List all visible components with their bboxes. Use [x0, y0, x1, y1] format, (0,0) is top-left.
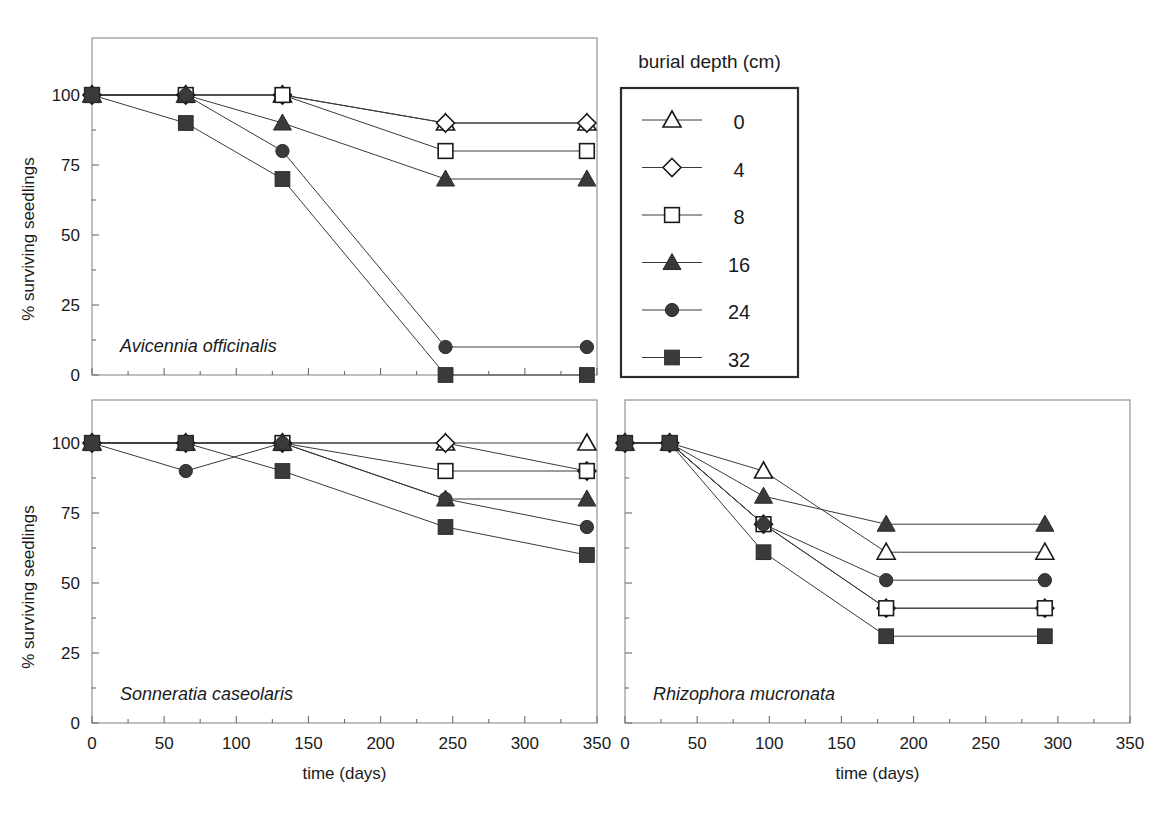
- x-axis-title-rhizophora: time (days): [835, 764, 919, 783]
- x-tick-label-rhizophora-50: 50: [688, 734, 707, 753]
- legend-label-24: 24: [728, 301, 750, 323]
- y-tick-label-sonneratia-75: 75: [61, 504, 80, 523]
- x-tick-label-sonneratia-250: 250: [439, 734, 467, 753]
- series-line-sonneratia-8: [92, 443, 587, 471]
- series-line-rhizophora-16: [625, 443, 1045, 524]
- x-tick-label-rhizophora-150: 150: [827, 734, 855, 753]
- data-point-sonneratia-24-343: [580, 520, 593, 533]
- data-point-sonneratia-16-343: [578, 490, 596, 506]
- data-point-avicennia-16-245: [437, 170, 455, 186]
- data-point-sonneratia-8-343: [580, 464, 595, 479]
- data-point-sonneratia-32-245: [438, 520, 453, 535]
- legend-label-8: 8: [733, 206, 744, 228]
- data-point-rhizophora-32-96: [756, 545, 771, 560]
- data-point-rhizophora-32-31: [662, 436, 677, 451]
- data-point-rhizophora-32-181: [879, 629, 894, 644]
- series-line-avicennia-24: [92, 95, 587, 347]
- data-point-sonneratia-8-245: [438, 464, 453, 479]
- series-line-sonneratia-24: [92, 443, 587, 527]
- x-tick-label-rhizophora-250: 250: [972, 734, 1000, 753]
- x-tick-label-rhizophora-100: 100: [755, 734, 783, 753]
- y-axis-title-sonneratia: % surviving seedlings: [19, 505, 38, 668]
- data-point-rhizophora-24-181: [880, 574, 893, 587]
- y-axis-title-avicennia: % surviving seedlings: [19, 157, 38, 320]
- legend-marker-circle-filled: [665, 303, 678, 316]
- panel-frame-rhizophora: [625, 400, 1130, 723]
- x-tick-label-sonneratia-0: 0: [87, 734, 96, 753]
- data-point-avicennia-24-245: [439, 340, 452, 353]
- legend-box: [621, 88, 798, 377]
- x-tick-label-rhizophora-200: 200: [899, 734, 927, 753]
- data-point-rhizophora-8-181: [879, 601, 894, 616]
- data-point-rhizophora-24-96: [757, 518, 770, 531]
- y-tick-label-sonneratia-25: 25: [61, 644, 80, 663]
- y-tick-label-avicennia-50: 50: [61, 226, 80, 245]
- figure-canvas: 0255075100Avicennia officinalis% survivi…: [0, 0, 1159, 819]
- series-line-avicennia-32: [92, 95, 587, 375]
- data-point-rhizophora-32-0: [618, 436, 633, 451]
- x-tick-label-sonneratia-350: 350: [583, 734, 611, 753]
- data-point-avicennia-16-343: [578, 170, 596, 186]
- legend-title: burial depth (cm): [638, 51, 781, 72]
- data-point-rhizophora-32-291: [1038, 629, 1053, 644]
- legend-label-32: 32: [728, 349, 750, 371]
- legend-marker-square-open: [665, 208, 680, 223]
- x-tick-label-sonneratia-150: 150: [294, 734, 322, 753]
- data-point-sonneratia-32-132: [275, 464, 290, 479]
- data-point-rhizophora-24-291: [1038, 574, 1051, 587]
- x-tick-label-rhizophora-0: 0: [620, 734, 629, 753]
- species-label-avicennia: Avicennia officinalis: [119, 336, 277, 356]
- x-tick-label-sonneratia-200: 200: [366, 734, 394, 753]
- x-axis-title-sonneratia: time (days): [302, 764, 386, 783]
- data-point-rhizophora-16-291: [1036, 515, 1054, 531]
- y-tick-label-sonneratia-0: 0: [71, 714, 80, 733]
- data-point-avicennia-32-132: [275, 172, 290, 187]
- data-point-sonneratia-32-343: [580, 548, 595, 563]
- data-point-sonneratia-32-0: [85, 436, 100, 451]
- series-line-rhizophora-4: [625, 443, 1045, 608]
- data-point-avicennia-24-343: [580, 340, 593, 353]
- legend-label-4: 4: [733, 159, 744, 181]
- y-tick-label-avicennia-25: 25: [61, 296, 80, 315]
- series-line-sonneratia-4: [92, 443, 587, 471]
- y-tick-label-avicennia-100: 100: [52, 86, 80, 105]
- data-point-sonneratia-24-245: [439, 492, 452, 505]
- data-point-sonneratia-24-65: [179, 464, 192, 477]
- figure-root: 0255075100Avicennia officinalis% survivi…: [0, 0, 1159, 819]
- data-point-sonneratia-32-65: [178, 436, 193, 451]
- data-point-rhizophora-0-291: [1036, 543, 1054, 559]
- y-tick-label-sonneratia-100: 100: [52, 434, 80, 453]
- legend-marker-diamond-open: [663, 159, 681, 177]
- data-point-avicennia-32-245: [438, 368, 453, 383]
- data-point-sonneratia-0-343: [578, 434, 596, 450]
- x-tick-label-sonneratia-50: 50: [155, 734, 174, 753]
- y-tick-label-avicennia-75: 75: [61, 156, 80, 175]
- series-line-avicennia-4: [92, 95, 587, 123]
- data-point-avicennia-8-245: [438, 144, 453, 159]
- data-point-avicennia-32-65: [178, 116, 193, 131]
- data-point-sonneratia-24-132: [276, 436, 289, 449]
- panel-frame-avicennia: [92, 38, 597, 375]
- data-point-avicennia-16-132: [273, 114, 291, 130]
- y-tick-label-sonneratia-50: 50: [61, 574, 80, 593]
- species-label-rhizophora: Rhizophora mucronata: [653, 684, 835, 704]
- series-line-rhizophora-32: [625, 443, 1045, 636]
- species-label-sonneratia: Sonneratia caseolaris: [120, 684, 293, 704]
- data-point-rhizophora-8-291: [1038, 601, 1053, 616]
- data-point-avicennia-8-343: [580, 144, 595, 159]
- data-point-avicennia-8-132: [275, 88, 290, 103]
- data-point-rhizophora-0-96: [755, 462, 773, 478]
- legend-label-16: 16: [728, 254, 750, 276]
- x-tick-label-rhizophora-300: 300: [1044, 734, 1072, 753]
- legend-marker-triangle-filled: [663, 254, 681, 270]
- x-tick-label-sonneratia-300: 300: [511, 734, 539, 753]
- y-tick-label-avicennia-0: 0: [71, 366, 80, 385]
- legend-marker-square-filled: [665, 350, 680, 365]
- data-point-avicennia-32-0: [85, 88, 100, 103]
- data-point-rhizophora-16-96: [755, 487, 773, 503]
- data-point-avicennia-32-343: [580, 368, 595, 383]
- legend-label-0: 0: [733, 111, 744, 133]
- panel-frame-sonneratia: [92, 400, 597, 723]
- data-point-rhizophora-0-181: [877, 543, 895, 559]
- data-point-avicennia-24-65: [179, 88, 192, 101]
